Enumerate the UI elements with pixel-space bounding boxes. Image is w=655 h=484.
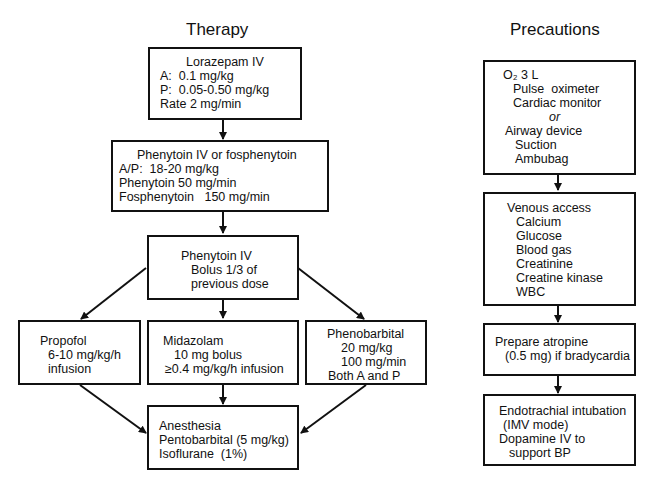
phenytoin-fosphenytoin-box: Phenytoin IV or fosphenytoin A/P: 18-20 … (111, 140, 329, 212)
box-line: Isoflurane (1%) (159, 447, 293, 461)
anesthesia-box: Anesthesia Pentobarbital (5 mg/kg) Isofl… (147, 405, 299, 470)
phenytoin-bolus-box: Phenytoin IV Bolus 1/3 of previous dose (147, 235, 299, 300)
box-line: Creatine kinase (507, 271, 630, 285)
box-line: Midazolam (163, 334, 293, 348)
box-line: Phenytoin 50 mg/min (119, 176, 321, 190)
lorazepam-box: Lorazepam IV A: 0.1 mg/kg P: 0.05-0.50 m… (148, 47, 302, 120)
box-line: Airway device (503, 124, 630, 138)
box-line: or (503, 110, 630, 124)
box-line: (0.5 mg) if bradycardia (495, 349, 630, 363)
box-line: Bolus 1/3 of (181, 263, 291, 277)
box-line: Anesthesia (159, 419, 293, 433)
box-line: Venous access (507, 201, 630, 215)
oxygen-monitoring-box: O₂ 3 L Pulse oximeter Cardiac monitor or… (483, 60, 636, 175)
box-line: Suction (503, 138, 630, 152)
box-line: Blood gas (507, 243, 630, 257)
box-line: Phenytoin IV or fosphenytoin (119, 148, 321, 162)
box-line: Phenytoin IV (181, 249, 291, 263)
box-line: Pentobarbital (5 mg/kg) (159, 433, 293, 447)
box-line: Prepare atropine (495, 335, 630, 349)
box-line: Glucose (507, 229, 630, 243)
phenobarbital-box: Phenobarbital 20 mg/kg 100 mg/min Both A… (305, 320, 427, 385)
box-line: Cardiac monitor (503, 96, 630, 110)
box-line: Lorazepam IV (160, 55, 294, 69)
box-line: Ambubag (503, 152, 630, 166)
atropine-box: Prepare atropine (0.5 mg) if bradycardia (483, 323, 636, 376)
box-line: 10 mg bolus (163, 348, 293, 362)
therapy-title: Therapy (186, 20, 248, 40)
box-line: Dopamine IV to (499, 432, 630, 446)
box-line: A/P: 18-20 mg/kg (119, 162, 321, 176)
box-line: 100 mg/min (327, 355, 421, 369)
box-line: infusion (40, 362, 135, 376)
propofol-box: Propofol 6-10 mg/kg/h infusion (18, 320, 141, 385)
box-line: Fosphenytoin 150 mg/min (119, 190, 321, 204)
box-line: 6-10 mg/kg/h (40, 348, 135, 362)
box-line: ≥0.4 mg/kg/h infusion (163, 362, 293, 376)
box-line: Pulse oximeter (503, 82, 630, 96)
box-line: P: 0.05-0.50 mg/kg (160, 83, 294, 97)
box-line: (IMV mode) (499, 418, 630, 432)
midazolam-box: Midazolam 10 mg bolus ≥0.4 mg/kg/h infus… (147, 320, 299, 385)
box-line: Rate 2 mg/min (160, 97, 294, 111)
box-line: support BP (499, 446, 630, 460)
box-line: Propofol (40, 334, 135, 348)
intubation-box: Endotrachial intubation (IMV mode) Dopam… (483, 394, 636, 466)
box-line: Both A and P (327, 369, 421, 383)
venous-access-box: Venous access Calcium Glucose Blood gas … (483, 192, 636, 306)
box-line: O₂ 3 L (503, 68, 630, 82)
box-line: previous dose (181, 277, 291, 291)
box-line: Endotrachial intubation (499, 404, 630, 418)
box-line: 20 mg/kg (327, 341, 421, 355)
precautions-title: Precautions (510, 20, 600, 40)
box-line: A: 0.1 mg/kg (160, 69, 294, 83)
box-line: Calcium (507, 215, 630, 229)
box-line: Phenobarbital (327, 327, 421, 341)
box-line: Creatinine (507, 257, 630, 271)
box-line: WBC (507, 285, 630, 299)
